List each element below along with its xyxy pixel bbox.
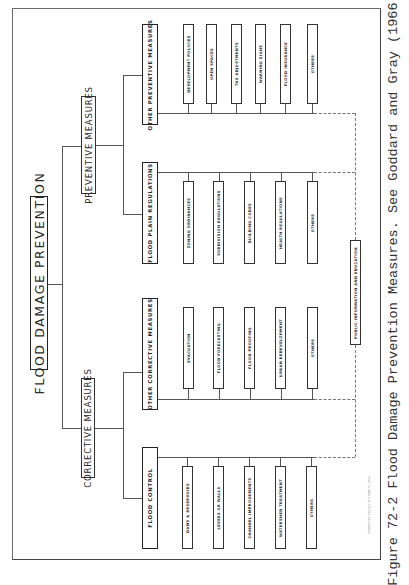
leaf-tax-adjustments: TAX ADJUSTMENTS <box>231 24 242 104</box>
dashed-connector <box>314 172 355 173</box>
leaf-dams-reservoirs: DAMS & RESERVOIRS <box>182 466 193 549</box>
branch-label: PREVENTIVE MEASURES <box>84 86 94 204</box>
leaf-flood-insurance: FLOOD INSURANCE <box>280 24 291 104</box>
connector <box>158 172 314 173</box>
leaf-label: OTHERS <box>310 498 314 517</box>
leaf-label: EVACUATION <box>187 333 191 363</box>
connector <box>123 498 142 499</box>
leaf-label: WATERSHED TREATMENT <box>279 479 283 537</box>
leaf-warning-signs: WARNING SIGNS <box>255 24 266 104</box>
shared-node-public-information: PUBLIC INFORMATION AND EDUCATION <box>350 240 361 345</box>
connector <box>281 172 282 181</box>
dashed-connector <box>314 457 355 458</box>
dashed-connector <box>314 113 355 114</box>
connector <box>123 75 124 215</box>
group-label: OTHER CORRECTIVE MEASURES <box>147 298 153 409</box>
connector <box>62 428 81 429</box>
leaf-label: DAMS & RESERVOIRS <box>186 483 190 533</box>
leaf-label: FLOOD FORECASTING <box>217 323 221 373</box>
leaf-zoning-ordinances: ZONING ORDINANCES <box>183 181 194 264</box>
connector <box>312 172 313 181</box>
connector <box>219 172 220 181</box>
shared-node-label: PUBLIC INFORMATION AND EDUCATION <box>354 247 358 339</box>
connector <box>312 389 313 399</box>
group-label: FLOOD PLAIN REGULATIONS <box>147 163 153 263</box>
leaf-label: ZONING ORDINANCES <box>187 197 191 248</box>
group-other-corrective-measures: OTHER CORRECTIVE MEASURES <box>142 298 158 410</box>
connector <box>312 104 313 113</box>
credit-label: TENNESSEE VALLEY AUTHORITY 1966 <box>368 476 371 534</box>
leaf-flood-forecasting: FLOOD FORECASTING <box>213 307 224 389</box>
leaf-others: OTHERS <box>307 307 318 389</box>
branch-preventive-measures: PREVENTIVE MEASURES <box>81 96 96 194</box>
leaf-building-codes: BUILDING CODES <box>244 181 255 264</box>
leaf-label: CHANNEL IMPROVEMENTS <box>248 477 252 538</box>
leaf-label: WARNING SIGNS <box>259 45 263 84</box>
leaf-health-regulations: HEALTH REGULATIONS <box>275 181 286 264</box>
leaf-subdivision-regulations: SUBDIVISION REGULATIONS <box>213 181 224 264</box>
leaf-label: FLOOD INSURANCE <box>284 42 288 86</box>
leaf-label: DEVELOPMENT POLICIES <box>187 35 191 93</box>
leaf-development-policies: DEVELOPMENT POLICIES <box>183 24 194 104</box>
leaf-evacuation: EVACUATION <box>183 307 194 389</box>
connector <box>123 75 142 76</box>
connector <box>311 457 312 466</box>
branch-label: CORRECTIVE MEASURES <box>83 368 93 487</box>
connector <box>188 389 189 399</box>
leaf-levees-walls: LEVEES OR WALLS <box>213 466 224 549</box>
connector <box>249 457 250 466</box>
leaf-others: OTHERS <box>307 181 318 264</box>
leaf-urban-redevelopment: URBAN REDEVELOPMENT <box>275 307 286 389</box>
leaf-label: URBAN REDEVELOPMENT <box>279 319 283 377</box>
leaf-label: LEVEES OR WALLS <box>217 486 221 529</box>
leaf-label: BUILDING CODES <box>248 202 252 242</box>
leaf-label: TAX ADJUSTMENTS <box>235 42 239 86</box>
root-label: FLOOD DAMAGE PREVENTION <box>32 172 47 395</box>
leaf-others: OTHERS <box>307 24 318 104</box>
group-other-preventive-measures: OTHER PREVENTIVE MEASURES <box>142 24 158 125</box>
connector <box>158 113 314 114</box>
dashed-connector <box>355 113 356 240</box>
leaf-watershed-treatment: WATERSHED TREATMENT <box>275 466 286 549</box>
root-node: FLOOD DAMAGE PREVENTION <box>30 196 48 370</box>
leaf-label: OTHERS <box>311 55 315 74</box>
connector <box>62 146 63 429</box>
connector <box>95 428 123 429</box>
leaf-open-spaces: OPEN SPACES <box>206 24 217 104</box>
dashed-connector <box>355 345 356 457</box>
connector <box>219 389 220 399</box>
group-label: FLOOD CONTROL <box>147 468 153 528</box>
connector <box>285 104 286 113</box>
connector <box>48 284 62 285</box>
connector <box>123 214 142 215</box>
credit-text: TENNESSEE VALLEY AUTHORITY 1966 <box>366 455 372 555</box>
connector <box>281 389 282 399</box>
connector <box>218 457 219 466</box>
connector <box>236 104 237 113</box>
leaf-label: OPEN SPACES <box>210 48 214 80</box>
connector <box>280 457 281 466</box>
figure-caption: Figure 72-2 Flood Damage Prevention Meas… <box>383 8 403 563</box>
branch-corrective-measures: CORRECTIVE MEASURES <box>81 378 95 478</box>
leaf-label: OTHERS <box>311 339 315 358</box>
connector <box>62 146 81 147</box>
connector <box>211 104 212 113</box>
connector <box>123 372 124 499</box>
connector <box>158 399 314 400</box>
connector <box>250 389 251 399</box>
connector <box>96 145 123 146</box>
connector <box>188 104 189 113</box>
leaf-others: OTHERS <box>306 466 317 549</box>
group-flood-plain-regulations: FLOOD PLAIN REGULATIONS <box>142 162 158 264</box>
leaf-label: OTHERS <box>311 213 315 232</box>
leaf-channel-improvements: CHANNEL IMPROVEMENTS <box>244 466 255 549</box>
leaf-label: FLOOD PROOFING <box>248 327 252 369</box>
group-label: OTHER PREVENTIVE MEASURES <box>147 19 153 130</box>
connector <box>250 172 251 181</box>
leaf-label: SUBDIVISION REGULATIONS <box>217 190 221 255</box>
connector <box>187 457 188 466</box>
leaf-label: HEALTH REGULATIONS <box>279 196 283 248</box>
leaf-flood-proofing: FLOOD PROOFING <box>244 307 255 389</box>
connector <box>158 457 314 458</box>
group-flood-control: FLOOD CONTROL <box>142 447 158 549</box>
